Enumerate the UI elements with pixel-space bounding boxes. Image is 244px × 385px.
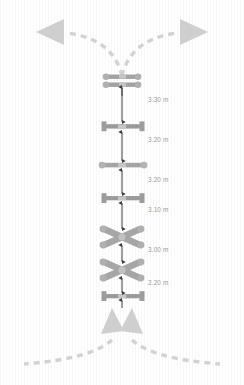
dimension-label-d1: 3.30 m: [148, 96, 168, 103]
dimension-label-d5: 3.00 m: [148, 246, 168, 253]
track-spacing-diagram: 3.30 m 3.20 m 3.20 m 3.10 m 3.00 m 2.20 …: [0, 0, 244, 385]
dimension-label-layer: 3.30 m 3.20 m 3.20 m 3.10 m 3.00 m 2.20 …: [0, 0, 244, 385]
dimension-label-d3: 3.20 m: [148, 176, 168, 183]
dimension-label-d4: 3.10 m: [148, 206, 168, 213]
dimension-label-d2: 3.20 m: [148, 136, 168, 143]
dimension-label-d6: 2.20 m: [148, 279, 168, 286]
